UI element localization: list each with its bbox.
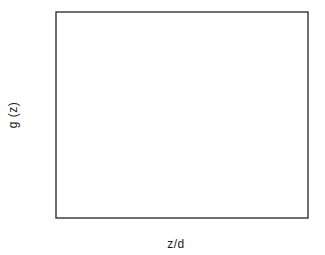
figure-container: z/d g (z) <box>0 0 325 255</box>
plot-background <box>0 0 325 255</box>
x-axis-title: z/d <box>167 237 185 251</box>
y-axis-title: g (z) <box>6 102 20 129</box>
scientific-plot: z/d g (z) <box>0 0 325 255</box>
